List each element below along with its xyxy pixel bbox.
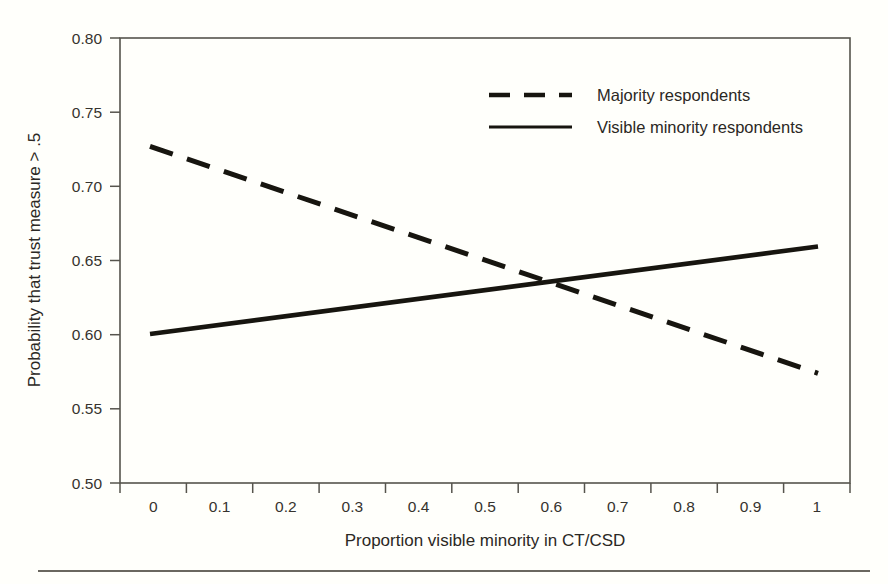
legend: Majority respondents Visible minority re…: [489, 86, 803, 136]
x-tick-label: 0.2: [275, 498, 297, 515]
y-tick-label: 0.60: [72, 326, 103, 343]
y-tick-label: 0.80: [72, 30, 103, 47]
y-axis-title: Probability that trust measure > .5: [25, 133, 44, 388]
x-axis-ticks: [120, 483, 850, 493]
y-tick-label: 0.55: [72, 400, 102, 417]
y-tick-label: 0.50: [72, 475, 103, 492]
y-tick-label: 0.65: [72, 252, 102, 269]
x-tick-label: 0.8: [673, 498, 695, 515]
y-axis-ticks: [110, 38, 120, 483]
x-tick-label: 0: [149, 498, 158, 515]
x-tick-label: 1: [812, 498, 821, 515]
y-axis-tick-labels: 0.80 0.75 0.70 0.65 0.60 0.55 0.50: [72, 30, 103, 492]
x-tick-label: 0.4: [408, 498, 430, 515]
y-tick-label: 0.75: [72, 104, 102, 121]
x-tick-label: 0.7: [607, 498, 629, 515]
x-tick-label: 0.3: [342, 498, 364, 515]
x-tick-label: 0.5: [474, 498, 496, 515]
y-tick-label: 0.70: [72, 178, 103, 195]
data-series-group: [150, 146, 818, 373]
x-tick-label: 0.1: [209, 498, 231, 515]
x-axis-tick-labels: 0 0.1 0.2 0.3 0.4 0.5 0.6 0.7 0.8 0.9 1: [149, 498, 821, 515]
figure-container: 0.80 0.75 0.70 0.65 0.60 0.55 0.50 0: [0, 0, 888, 584]
line-chart: 0.80 0.75 0.70 0.65 0.60 0.55 0.50 0: [0, 0, 888, 584]
legend-label-majority-respondents: Majority respondents: [597, 86, 750, 104]
x-axis-title: Proportion visible minority in CT/CSD: [345, 531, 626, 550]
x-tick-label: 0.6: [541, 498, 563, 515]
x-tick-label: 0.9: [740, 498, 762, 515]
legend-label-visible-minority-respondents: Visible minority respondents: [597, 118, 803, 136]
